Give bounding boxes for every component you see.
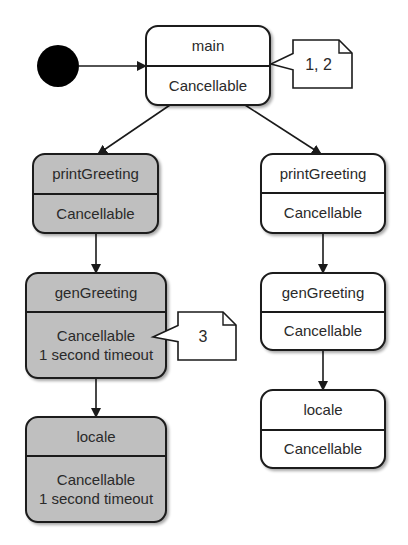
initial-node-layer [37,45,79,87]
state-printGreeting-right: printGreetingCancellable [261,154,385,233]
state-property: Cancellable [169,77,247,94]
state-name: genGreeting [55,284,138,301]
state-property: Cancellable [57,327,135,344]
state-property: Cancellable [284,322,362,339]
state-property: 1 second timeout [39,346,154,363]
state-name: printGreeting [280,165,367,182]
transition-arrow-main-to-printGreeting-right [245,105,321,154]
state-property: Cancellable [57,471,135,488]
state-property: Cancellable [284,204,362,221]
state-printGreeting-left: printGreetingCancellable [33,154,158,233]
state-genGreeting-right: genGreetingCancellable [261,273,385,350]
state-main: mainCancellable [146,26,270,105]
state-name: locale [76,428,115,445]
state-property: Cancellable [284,440,362,457]
state-property: Cancellable [56,205,134,222]
state-name: locale [303,401,342,418]
transition-arrow-main-to-printGreeting-left [98,105,170,154]
state-diagram: mainCancellableprintGreetingCancellableg… [0,0,408,545]
state-locale-left: localeCancellable1 second timeout [26,417,166,522]
initial-state-node [37,45,79,87]
state-name: genGreeting [282,284,365,301]
state-locale-right: localeCancellable [261,390,385,468]
note-text: 1, 2 [305,56,332,73]
state-genGreeting-left: genGreetingCancellable1 second timeout [26,273,166,378]
state-property: 1 second timeout [39,490,154,507]
state-name: printGreeting [52,165,139,182]
state-name: main [192,37,225,54]
states: mainCancellableprintGreetingCancellableg… [26,26,385,522]
note-main: 1, 2 [271,40,352,88]
note-text: 3 [199,328,208,345]
